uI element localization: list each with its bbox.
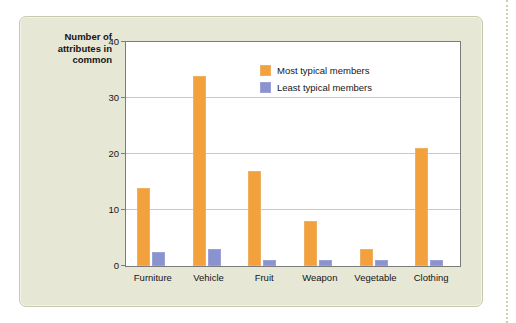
page-edge-dotted-rule xyxy=(506,0,508,323)
bar xyxy=(304,221,317,266)
y-tick-mark xyxy=(121,153,125,154)
bar xyxy=(137,188,150,266)
bar xyxy=(375,260,388,266)
bar xyxy=(152,252,165,266)
figure-root: Number of attributes in common Most typi… xyxy=(0,0,516,323)
y-tick-mark xyxy=(121,97,125,98)
chart-legend: Most typical membersLeast typical member… xyxy=(260,63,372,97)
legend-label: Least typical members xyxy=(277,82,372,93)
y-tick-mark xyxy=(121,209,125,210)
bar xyxy=(263,260,276,266)
bar xyxy=(430,260,443,266)
bar xyxy=(248,171,261,266)
bar-group xyxy=(137,42,165,266)
bar xyxy=(193,76,206,266)
y-tick-label: 10 xyxy=(93,204,119,215)
legend-item: Most typical members xyxy=(260,63,372,78)
y-tick-label: 0 xyxy=(93,260,119,271)
legend-item: Least typical members xyxy=(260,80,372,95)
y-tick-mark xyxy=(121,265,125,266)
bar xyxy=(208,249,221,266)
bar xyxy=(319,260,332,266)
legend-swatch xyxy=(260,65,271,76)
bar-group xyxy=(415,42,443,266)
chart-panel: Number of attributes in common Most typi… xyxy=(19,16,483,307)
y-tick-label: 40 xyxy=(93,36,119,47)
y-tick-mark xyxy=(121,41,125,42)
bar-group xyxy=(193,42,221,266)
x-tick-label: Clothing xyxy=(391,272,471,283)
bar xyxy=(360,249,373,266)
legend-label: Most typical members xyxy=(277,65,369,76)
y-tick-label: 30 xyxy=(93,92,119,103)
legend-swatch xyxy=(260,82,271,93)
y-tick-label: 20 xyxy=(93,148,119,159)
bar xyxy=(415,148,428,266)
